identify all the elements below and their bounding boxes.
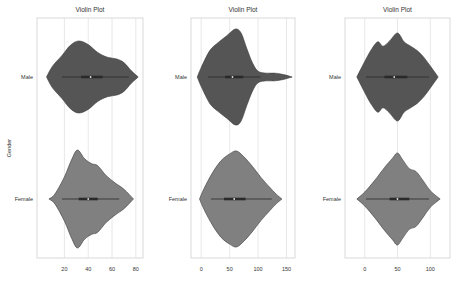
violin-plot-figure: Gender Violin Plot20406080MaleFemaleViol… — [0, 0, 462, 281]
x-tick-label: 100 — [426, 266, 435, 272]
median-marker-male — [232, 76, 234, 78]
y-tick-label-male: Male — [329, 74, 341, 80]
panel-title: Violin Plot — [76, 6, 105, 13]
y-tick-label-male: Male — [175, 74, 187, 80]
x-tick-label: 40 — [85, 266, 91, 272]
x-tick-label: 0 — [363, 266, 366, 272]
y-tick-label-female: Female — [15, 196, 33, 202]
median-marker-male — [393, 76, 395, 78]
y-axis-label: Gender — [6, 139, 12, 158]
iqr-box-male — [81, 76, 102, 79]
y-tick-label-male: Male — [21, 74, 33, 80]
median-marker-female — [397, 198, 399, 200]
iqr-box-female — [390, 198, 410, 201]
y-tick-label-female: Female — [323, 196, 341, 202]
x-tick-label: 80 — [133, 266, 139, 272]
x-tick-label: 150 — [282, 266, 291, 272]
x-tick-label: 0 — [200, 266, 203, 272]
panel-title: Violin Plot — [229, 6, 258, 13]
violin-panel-1: Violin Plot20406080MaleFemale — [15, 6, 143, 272]
median-marker-male — [90, 76, 92, 78]
median-marker-female — [233, 198, 235, 200]
iqr-box-male — [225, 76, 243, 79]
x-tick-label: 100 — [253, 266, 262, 272]
violin-panel-2: Violin Plot050100150MaleFemale — [169, 6, 295, 272]
x-tick-label: 50 — [394, 266, 400, 272]
iqr-box-male — [384, 76, 407, 79]
median-marker-female — [87, 198, 89, 200]
x-tick-label: 50 — [227, 266, 233, 272]
panel-title: Violin Plot — [383, 6, 412, 13]
x-tick-label: 20 — [61, 266, 67, 272]
x-tick-label: 60 — [109, 266, 115, 272]
y-tick-label-female: Female — [169, 196, 187, 202]
violin-panel-3: Violin Plot050100MaleFemale — [323, 6, 450, 272]
